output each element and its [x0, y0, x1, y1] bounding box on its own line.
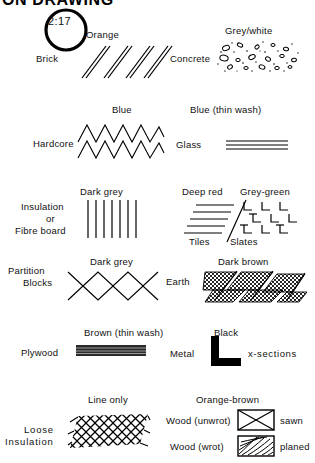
label-partition-line1: Partition: [8, 265, 45, 276]
symbol-glass-lines: [226, 139, 288, 151]
label-partition-line2: Blocks: [23, 277, 52, 288]
label-planed: planed: [280, 441, 310, 452]
label-brick: Brick: [36, 53, 58, 64]
label-insulation-line3: Fibre board: [15, 225, 66, 236]
symbol-earth-hatch: [203, 268, 307, 302]
label-deep-red: Deep red: [182, 186, 223, 197]
label-orange-brown: Orange-brown: [196, 394, 259, 405]
label-metal: Metal: [170, 348, 194, 359]
label-hardcore: Hardcore: [33, 138, 74, 149]
label-loose-line1: Loose: [24, 424, 54, 435]
label-insulation-line1: Insulation: [21, 201, 64, 212]
stamp-text: 2:17: [48, 16, 71, 27]
symbol-wood-unwrot-box: [237, 409, 275, 431]
label-earth: Earth: [166, 276, 190, 287]
label-x-sections: x-sections: [248, 348, 297, 359]
label-slates: Slates: [230, 236, 258, 247]
label-sawn: sawn: [280, 415, 303, 426]
symbol-wood-wrot-box: [237, 435, 275, 457]
symbol-metal-angle: [211, 336, 243, 366]
label-dark-grey: Dark grey: [80, 186, 123, 197]
label-blue: Blue: [112, 104, 132, 115]
label-grey-green: Grey-green: [240, 186, 290, 197]
label-plywood: Plywood: [21, 347, 58, 358]
symbol-concrete-aggregate: [216, 40, 300, 72]
symbol-brick-hatch: [76, 40, 172, 82]
symbol-loose-insulation-mesh: [68, 414, 150, 452]
symbol-insulation-vertical-lines: [86, 200, 138, 238]
label-wood-unwrot: Wood (unwrot): [166, 415, 231, 426]
symbol-slates-ticks: [240, 201, 302, 235]
label-loose-line2: Insulation: [5, 436, 54, 447]
label-brown-thin-wash: Brown (thin wash): [84, 327, 163, 338]
label-grey-white: Grey/white: [225, 25, 272, 36]
label-line-only: Line only: [88, 394, 128, 405]
label-dark-grey-2: Dark grey: [90, 256, 133, 267]
label-wood-wrot: Wood (wrot): [170, 441, 224, 452]
label-tiles: Tiles: [189, 236, 210, 247]
symbol-hardcore-zigzag: [78, 120, 164, 160]
label-dark-brown: Dark brown: [218, 256, 269, 267]
label-glass: Glass: [176, 139, 201, 150]
symbol-partition-diamonds: [68, 270, 160, 302]
label-insulation-line2: or: [46, 213, 55, 224]
label-blue-thin-wash: Blue (thin wash): [190, 104, 261, 115]
label-concrete: Concrete: [170, 53, 210, 64]
symbol-plywood-bar: [76, 345, 146, 357]
hatching-legend-sheet: ON DRAWING Brick Orange 2:17 Concrete Gr…: [0, 0, 315, 463]
